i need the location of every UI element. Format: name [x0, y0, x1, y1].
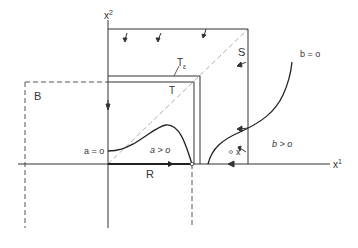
boundary-point	[190, 162, 194, 166]
region-t-eps-label: Tε	[177, 58, 186, 70]
x1-axis-label: x1	[333, 158, 342, 170]
diagram-canvas	[0, 0, 358, 248]
segment-r-label: R	[146, 169, 154, 180]
region-s-label: S	[238, 47, 245, 58]
curve-b-zero-label: b = o	[300, 50, 320, 59]
curve-a-positive-label: a > o	[150, 146, 170, 155]
point-x-marker	[230, 151, 233, 154]
x2-axis-label: x2	[104, 9, 113, 21]
curve-a-zero-label: a = o	[84, 147, 104, 156]
point-x-label: x	[236, 148, 241, 157]
curve-b-positive-label: b > o	[272, 140, 292, 149]
r-arrow-icon	[168, 161, 174, 167]
diagonal-line	[108, 29, 248, 164]
region-t-label: T	[169, 86, 175, 96]
region-b-label: B	[34, 91, 41, 102]
